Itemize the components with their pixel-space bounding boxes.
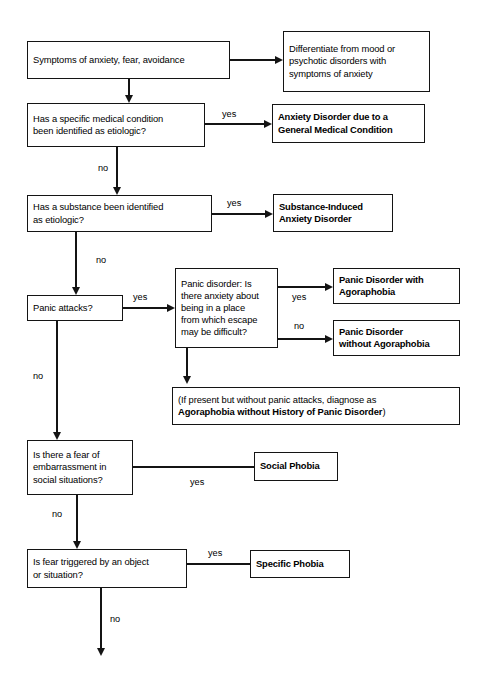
- agoraphobia-note-line1: (If present but without panic attacks, d…: [178, 394, 454, 406]
- node-agoraphobia-note: (If present but without panic attacks, d…: [172, 387, 460, 425]
- edge-label-object-fear-yes: yes: [208, 548, 222, 558]
- edge-label-panic-attacks-yes: yes: [133, 292, 147, 302]
- edge-panic-attacks-no: [56, 321, 58, 432]
- node-differentiate: Differentiate from mood or psychotic dis…: [283, 31, 430, 92]
- edge-label-social-fear-no: no: [52, 509, 62, 519]
- node-substance-question: Has a substance been identified as etiol…: [27, 195, 212, 232]
- edge-object-fear-no: [100, 588, 102, 648]
- arrowhead-social-fear-no: [73, 541, 81, 549]
- arrowhead-object-fear-no: [97, 648, 105, 656]
- node-panic-disorder-with-agoraphobia: Panic Disorder with Agoraphobia: [333, 268, 460, 304]
- edge-substance-no: [75, 232, 77, 287]
- node-object-fear-question: Is fear triggered by an object or situat…: [27, 549, 187, 588]
- edge-label-panic-disorder-yes: yes: [292, 292, 306, 302]
- arrowhead-medical-condition-no: [113, 187, 121, 195]
- edge-label-panic-attacks-no: no: [33, 371, 43, 381]
- agoraphobia-note-line3: ): [382, 406, 385, 417]
- edge-medical-condition-yes: [205, 123, 264, 125]
- arrowhead-medical-condition-yes: [264, 120, 272, 128]
- edge-panic-attacks-yes: [123, 307, 167, 309]
- node-social-phobia: Social Phobia: [254, 452, 338, 481]
- page-title: [0, 0, 482, 14]
- edge-label-social-fear-yes: yes: [190, 477, 204, 487]
- node-medical-condition-question: Has a specific medical condition been id…: [27, 103, 205, 147]
- node-panic-attacks-question: Panic attacks?: [27, 295, 123, 321]
- flowchart-canvas: Symptoms of anxiety, fear, avoidance Dif…: [0, 0, 482, 696]
- arrowhead-panic-disorder-yes: [325, 283, 333, 291]
- node-specific-phobia: Specific Phobia: [250, 550, 350, 578]
- edge-object-fear-yes: [187, 563, 250, 565]
- edge-symptoms-to-differentiate: [230, 59, 275, 61]
- node-panic-disorder-without-agoraphobia: Panic Disorder without Agoraphobia: [333, 320, 460, 356]
- edge-medical-condition-no: [116, 147, 118, 187]
- node-symptoms: Symptoms of anxiety, fear, avoidance: [27, 41, 230, 79]
- arrowhead-panic-disorder-to-note: [183, 376, 191, 384]
- edge-substance-yes: [212, 213, 265, 215]
- edge-panic-disorder-no: [278, 338, 325, 340]
- edge-label-medical-condition-no: no: [98, 163, 108, 173]
- edge-label-substance-yes: yes: [227, 198, 241, 208]
- edge-symptoms-to-medical-condition: [128, 79, 130, 95]
- edge-label-object-fear-no: no: [110, 614, 120, 624]
- node-panic-disorder-question: Panic disorder: Is there anxiety about b…: [175, 268, 278, 348]
- arrowhead-substance-yes: [265, 210, 273, 218]
- arrowhead-substance-no: [72, 287, 80, 295]
- edge-label-medical-condition-yes: yes: [222, 109, 236, 119]
- arrowhead-panic-attacks-yes: [167, 304, 175, 312]
- arrowhead-symptoms-to-differentiate: [275, 56, 283, 64]
- edge-social-fear-yes: [133, 466, 254, 468]
- agoraphobia-note-line2: Agoraphobia without History of Panic Dis…: [178, 406, 382, 417]
- arrowhead-symptoms-to-medical-condition: [125, 95, 133, 103]
- node-anxiety-disorder-gmc: Anxiety Disorder due to a General Medica…: [272, 104, 425, 143]
- node-substance-induced-anxiety-disorder: Substance-Induced Anxiety Disorder: [273, 194, 393, 232]
- edge-social-fear-no: [76, 495, 78, 541]
- edge-label-panic-disorder-no: no: [294, 321, 304, 331]
- arrowhead-panic-disorder-no: [325, 335, 333, 343]
- node-social-fear-question: Is there a fear of embarrassment in soci…: [27, 440, 133, 495]
- edge-panic-disorder-yes: [278, 286, 325, 288]
- arrowhead-panic-attacks-no: [53, 432, 61, 440]
- edge-label-substance-no: no: [96, 255, 106, 265]
- edge-panic-disorder-to-note: [186, 348, 188, 376]
